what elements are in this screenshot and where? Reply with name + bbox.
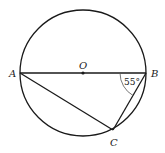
chord-ac — [20, 73, 113, 130]
label-c: C — [110, 137, 118, 148]
label-a: A — [8, 68, 16, 79]
center-point-o — [81, 71, 84, 74]
geometry-diagram: A O B C 55° — [0, 0, 165, 153]
angle-label-b: 55° — [124, 77, 140, 87]
label-b: B — [150, 68, 158, 79]
label-o: O — [79, 60, 87, 71]
